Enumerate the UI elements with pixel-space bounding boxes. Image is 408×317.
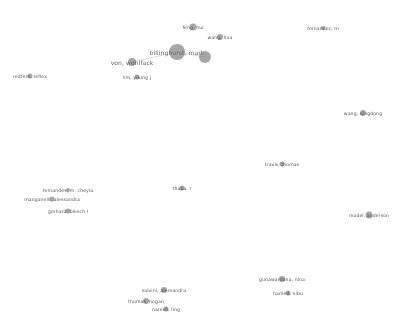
node-label[interactable]: von, wohlfack [111,59,154,66]
node-label[interactable]: billinghurst, mark [150,49,205,56]
node-label[interactable]: wang, hua [208,35,233,40]
node-label[interactable]: lim, young j [123,75,151,80]
node-label[interactable]: thomas, hogan [128,299,164,304]
node-label[interactable]: hamed, nibu [273,291,303,296]
node-label[interactable]: feng, hui [182,25,203,30]
node-label[interactable]: gunawardana, nina [259,277,305,282]
node-label[interactable]: fernandes, m. cheyla [43,188,93,193]
node-label[interactable]: naresh, ling [152,307,180,312]
node-label[interactable]: fernandez, m [307,26,339,31]
node-label[interactable]: salvini, alessandra [142,288,187,293]
node-label[interactable]: gerhard, blesch l [48,209,88,214]
node-label[interactable]: madel, anderson [349,213,389,218]
node-label[interactable]: redfern, reflex [13,74,47,79]
node-label[interactable]: travis, thomas [265,162,299,167]
node-label[interactable]: thapa, r [173,186,192,191]
node-label[interactable]: manganelli, alessandra [24,197,80,202]
network-map[interactable]: feng, huiwang, huabillinghurst, markvon,… [0,0,408,317]
node-label[interactable]: wang, qingdong [344,111,382,116]
network-node[interactable] [199,51,211,63]
